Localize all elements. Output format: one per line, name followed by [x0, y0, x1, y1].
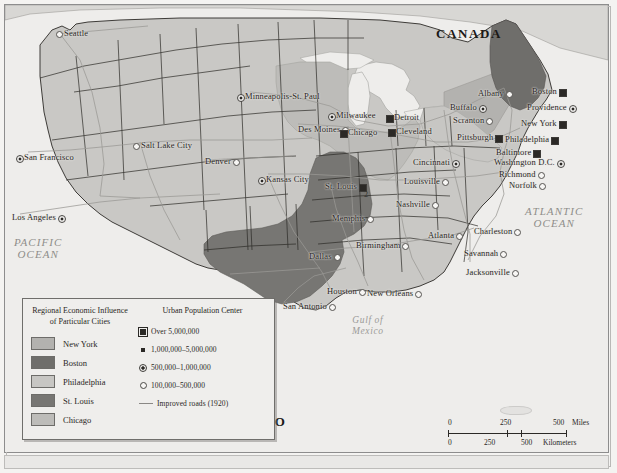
city-marker	[506, 91, 513, 98]
scale-miles-tick-0: 0	[448, 418, 452, 427]
city-label: Jacksonville	[466, 267, 510, 277]
city-marker	[456, 233, 463, 240]
city-marker	[340, 130, 348, 138]
city-marker	[495, 135, 503, 143]
city-marker	[500, 251, 507, 258]
scale-miles-unit: Miles	[572, 418, 589, 427]
city-marker	[388, 129, 396, 137]
city-marker	[452, 160, 460, 168]
legend-influence-row: Chicago	[31, 410, 129, 429]
legend-population-label: 500,000–1,000,000	[151, 363, 211, 372]
city-marker	[56, 31, 63, 38]
legend-influence-row: St. Louis	[31, 391, 129, 410]
scale-miles-labels: 0 250 500 Miles	[448, 418, 598, 429]
legend-influence-title: Regional Economic Influence of Particula…	[31, 306, 129, 327]
water-body-label: Gulf ofMexico	[352, 315, 384, 337]
city-label: Albany	[478, 88, 504, 98]
city-label: Detroit	[394, 112, 419, 122]
city-label: Philadelphia	[505, 134, 549, 144]
city-label: Cleveland	[396, 126, 432, 136]
city-label: Nashville	[396, 199, 430, 209]
city-label: Boston	[532, 86, 557, 96]
square-outlined-icon	[135, 329, 151, 335]
city-label: Cincinnati	[413, 157, 450, 167]
city-marker	[432, 202, 439, 209]
city-marker	[514, 229, 521, 236]
ocean-label: ATLANTICOCEAN	[525, 205, 584, 229]
city-label: Minneapolis-St. Paul	[245, 91, 320, 101]
legend-population-label: 100,000–500,000	[151, 381, 205, 390]
city-label: Dallas	[309, 251, 332, 261]
city-label: St. Louis	[325, 181, 357, 191]
scale-bar: 0 250 500 Miles 0 250 500 Kilometers	[448, 418, 598, 449]
city-marker	[329, 304, 336, 311]
legend-population-row: 100,000–500,000	[135, 377, 270, 395]
city-label: Charleston	[474, 226, 512, 236]
legend-influence-column: Regional Economic Influence of Particula…	[31, 306, 129, 429]
city-label: Houston	[327, 286, 357, 296]
scale-miles-tick-2: 500	[553, 418, 564, 427]
city-label: New York	[521, 118, 557, 128]
circle-open-icon	[135, 382, 151, 389]
city-label: New Orleans	[367, 288, 413, 298]
legend-color-swatch	[31, 375, 55, 388]
city-label: Scranton	[453, 115, 484, 125]
city-label: Buffalo	[450, 102, 477, 112]
map-legend: Regional Economic Influence of Particula…	[22, 298, 275, 440]
city-marker	[479, 105, 487, 113]
legend-color-swatch	[31, 356, 55, 369]
city-marker	[233, 159, 240, 166]
city-label: Washington D.C.	[494, 157, 555, 167]
scale-km-tick-0: 0	[448, 438, 452, 447]
legend-population-row: Over 5,000,000	[135, 323, 270, 341]
city-label: Salt Lake City	[141, 140, 192, 150]
city-marker	[359, 289, 366, 296]
legend-roads-label: Improved roads (1920)	[157, 399, 228, 408]
legend-population-row: 1,000,000–5,000,000	[135, 341, 270, 359]
line-icon	[135, 403, 157, 404]
scale-rule	[448, 430, 598, 437]
city-label: San Francisco	[24, 152, 74, 162]
city-label: Denver	[205, 156, 231, 166]
legend-influence-label: Boston	[63, 358, 87, 368]
city-marker	[442, 179, 449, 186]
city-marker	[538, 172, 545, 179]
city-marker	[386, 115, 394, 123]
scale-km-unit: Kilometers	[543, 438, 576, 447]
city-label: Providence	[527, 102, 567, 112]
page-bottom-bar	[4, 455, 609, 469]
city-label: Birmingham	[356, 240, 400, 250]
city-marker	[367, 216, 374, 223]
city-marker	[328, 113, 336, 121]
city-marker	[402, 243, 409, 250]
city-label: Baltimore	[496, 147, 531, 157]
city-label: Chicago	[348, 127, 377, 137]
city-marker	[569, 105, 577, 113]
legend-color-swatch	[31, 337, 55, 350]
scale-decoration	[500, 406, 532, 415]
legend-influence-items: New YorkBostonPhiladelphiaSt. LouisChica…	[31, 334, 129, 429]
city-marker	[133, 143, 140, 150]
city-marker	[16, 155, 24, 163]
city-marker	[559, 121, 567, 129]
city-marker	[58, 215, 66, 223]
legend-color-swatch	[31, 413, 55, 426]
city-marker	[539, 183, 546, 190]
scale-miles-tick-1: 250	[500, 418, 511, 427]
city-label: Seattle	[64, 28, 88, 38]
legend-population-row: 500,000–1,000,000	[135, 359, 270, 377]
city-marker	[334, 254, 341, 261]
country-label: CANADA	[436, 26, 502, 42]
city-label: Atlanta	[428, 230, 454, 240]
legend-population-column: Urban Population Center Over 5,000,0001,…	[135, 306, 270, 413]
city-label: San Antonio	[283, 301, 327, 311]
city-marker	[559, 89, 567, 97]
map-root: 2 SeattleSan FranciscoLos AngelesSalt La…	[0, 0, 617, 473]
city-marker	[237, 94, 245, 102]
city-marker	[359, 184, 367, 192]
square-small-icon	[135, 348, 151, 352]
legend-influence-row: New York	[31, 334, 129, 353]
legend-influence-row: Philadelphia	[31, 372, 129, 391]
city-marker	[415, 291, 422, 298]
scale-km-tick-2: 500	[521, 438, 532, 447]
